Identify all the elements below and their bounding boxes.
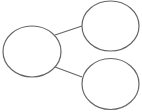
edge-left-to-bottom-right (55, 67, 82, 77)
node-top-right (82, 1, 139, 51)
edge-left-to-top-right (55, 26, 82, 35)
mind-map-diagram (0, 0, 142, 112)
node-left (3, 26, 61, 77)
node-bottom-right (82, 59, 139, 110)
